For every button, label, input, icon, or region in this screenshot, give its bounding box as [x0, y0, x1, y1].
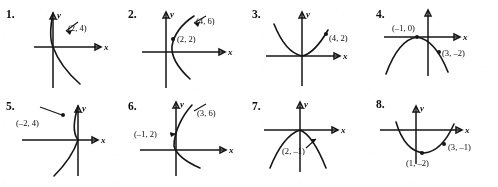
parabola-3: [274, 24, 328, 56]
graph-7: x y (2, –1): [248, 92, 372, 185]
parabola-4: [386, 37, 448, 74]
graph-1: x y (2, 4): [0, 0, 124, 93]
graph-6: x y (3, 6) (–1, 2): [124, 92, 248, 185]
y-axis-label-2: y: [169, 9, 175, 19]
point-label-5a: (–2, 4): [16, 118, 39, 128]
axes-8: [380, 106, 462, 164]
graph-3: x y (4, 2): [248, 0, 372, 93]
x-axis-label-7: x: [340, 125, 346, 135]
point-label-4b: (3, –2): [442, 48, 465, 58]
leader-line-5a: [40, 107, 62, 115]
axes-7: [264, 102, 338, 172]
problem-1: 1. x y (2, 4): [0, 0, 124, 93]
point-label-1a: (2, 4): [68, 23, 87, 33]
parabola-8: [396, 122, 454, 153]
point-dot-2b: [171, 37, 175, 41]
point-dot-8b: [420, 151, 424, 155]
point-dot-4b: [437, 50, 441, 54]
x-axis-label-3: x: [342, 51, 348, 61]
x-axis-label-6: x: [228, 145, 234, 155]
figure-row-bottom: 5. x y (–2, 4): [0, 92, 498, 185]
y-axis-label-1: y: [56, 10, 62, 20]
point-dot-5a: [61, 113, 65, 117]
graph-2: x y (4, 6) (2, 2): [124, 0, 248, 93]
parabola-2: [172, 16, 194, 79]
point-label-3a: (4, 2): [329, 33, 348, 43]
figure-sheet: 1. x y (2, 4): [0, 0, 498, 187]
problem-6: 6. x y (3, 6) (–1, 2): [124, 92, 248, 185]
x-axis-label-5: x: [100, 135, 106, 145]
point-dot-8a: [442, 142, 446, 146]
y-axis-label-7: y: [303, 99, 309, 109]
point-label-2b: (2, 2): [177, 34, 196, 44]
problem-4: 4. x (–1, 0) (3, –2): [372, 0, 496, 93]
problem-5: 5. x y (–2, 4): [0, 92, 124, 185]
point-label-2a: (4, 6): [196, 16, 215, 26]
axes-4: [384, 10, 460, 76]
problem-2: 2. x y (4, 6) (2, 2): [124, 0, 248, 93]
y-axis-label-5: y: [81, 103, 87, 113]
y-axis-label-6: y: [179, 99, 185, 109]
point-label-8a: (3, –1): [448, 142, 471, 152]
point-label-8b: (1, –2): [406, 158, 429, 168]
y-axis-label-3: y: [305, 9, 311, 19]
x-axis-label-4: x: [462, 32, 468, 42]
axes-3: [266, 12, 340, 86]
problem-8: 8. x y (3, –1) (1, –2): [372, 92, 496, 185]
point-label-6a: (3, 6): [197, 108, 216, 118]
problem-7: 7. x y (2, –1): [248, 92, 372, 185]
point-label-6b: (–1, 2): [134, 129, 157, 139]
graph-4: x (–1, 0) (3, –2): [372, 0, 496, 93]
figure-row-top: 1. x y (2, 4): [0, 0, 498, 93]
graph-5: x y (–2, 4): [0, 92, 124, 185]
point-dot-4a: [415, 35, 419, 39]
x-axis-label-1: x: [103, 42, 109, 52]
x-axis-label-8: x: [464, 125, 470, 135]
axes-5: [22, 106, 98, 176]
point-label-4a: (–1, 0): [392, 23, 415, 33]
y-axis-label-8: y: [419, 103, 425, 113]
point-label-7a: (2, –1): [282, 146, 305, 156]
graph-8: x y (3, –1) (1, –2): [372, 92, 496, 185]
parabola-5: [54, 106, 78, 176]
point-dot-3a: [324, 32, 328, 36]
problem-3: 3. x y (4, 2): [248, 0, 372, 93]
x-axis-label-2: x: [227, 47, 233, 57]
